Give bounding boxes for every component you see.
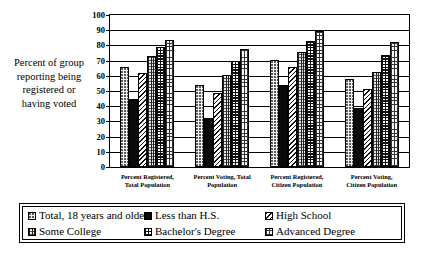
legend-swatch-icon xyxy=(144,228,152,236)
y-tick-label: 30 xyxy=(81,117,105,125)
y-tick-mark xyxy=(106,121,109,122)
y-tick-mark xyxy=(106,30,109,31)
bar-group xyxy=(110,15,185,167)
bar xyxy=(138,73,147,167)
bar xyxy=(345,79,354,167)
y-tick-label: 20 xyxy=(81,133,105,141)
legend-label: Bachelor's Degree xyxy=(155,226,235,237)
x-axis-category-line: Total Population xyxy=(110,181,185,189)
bar xyxy=(354,108,363,167)
legend-item[interactable]: Some College xyxy=(28,226,101,237)
y-tick-label: 60 xyxy=(81,72,105,80)
y-tick-mark xyxy=(106,76,109,77)
y-tick-mark xyxy=(106,45,109,46)
bar xyxy=(222,75,231,167)
chart-figure: Percent of group reporting being registe… xyxy=(0,0,424,256)
bar xyxy=(363,89,372,167)
x-axis-category-line: Citizen Population xyxy=(260,181,335,189)
y-tick-label: 70 xyxy=(81,57,105,65)
y-tick-mark xyxy=(106,106,109,107)
x-axis-category-label: Percent Voting,Citizen Population xyxy=(334,173,409,188)
y-tick-mark xyxy=(106,152,109,153)
bar xyxy=(297,52,306,167)
y-tick-label: 40 xyxy=(81,102,105,110)
bar xyxy=(129,99,138,167)
bar xyxy=(270,60,279,167)
bar-group xyxy=(260,15,335,167)
bar xyxy=(120,67,129,167)
x-axis-category-line: Citizen Population xyxy=(334,181,409,189)
legend-swatch-icon xyxy=(144,212,152,220)
y-tick-label: 10 xyxy=(81,148,105,156)
bar-group xyxy=(185,15,260,167)
legend-swatch-icon xyxy=(265,228,273,236)
bar xyxy=(372,72,381,167)
bar xyxy=(306,41,315,167)
y-tick-label: 0 xyxy=(81,163,105,171)
bar xyxy=(156,47,165,167)
x-axis-category-label: Percent Registered,Total Population xyxy=(110,173,185,188)
x-axis-category-line: Percent Voting, Total xyxy=(185,173,260,181)
x-axis-category-label: Percent Voting, TotalPopulation xyxy=(185,173,260,188)
legend-label: High School xyxy=(276,210,331,221)
bar-series-container xyxy=(110,15,409,167)
legend-swatch-icon xyxy=(28,228,36,236)
legend-item[interactable]: High School xyxy=(265,210,331,221)
legend-item[interactable]: Less than H.S. xyxy=(144,210,219,221)
x-axis-category-line: Percent Registered, xyxy=(260,173,335,181)
bar xyxy=(315,31,324,167)
bar xyxy=(147,56,156,167)
y-tick-label: 90 xyxy=(81,26,105,34)
legend-label: Total, 18 years and older xyxy=(39,210,148,221)
x-axis-category-label: Percent Registered,Citizen Population xyxy=(260,173,335,188)
bar-group xyxy=(334,15,409,167)
bar xyxy=(390,42,399,167)
y-tick-mark xyxy=(106,91,109,92)
y-tick-mark xyxy=(106,15,109,16)
legend-item[interactable]: Advanced Degree xyxy=(265,226,355,237)
legend-label: Advanced Degree xyxy=(276,226,355,237)
legend-label: Less than H.S. xyxy=(155,210,219,221)
bar xyxy=(240,49,249,167)
legend-swatch-icon xyxy=(28,212,36,220)
y-tick-label: 100 xyxy=(81,11,105,19)
bar xyxy=(279,85,288,167)
y-tick-mark xyxy=(106,137,109,138)
legend-item[interactable]: Total, 18 years and older xyxy=(28,210,148,221)
bar xyxy=(204,118,213,167)
bar xyxy=(165,40,174,167)
y-tick-mark xyxy=(106,167,109,168)
legend-label: Some College xyxy=(39,226,101,237)
x-axis-category-line: Population xyxy=(185,181,260,189)
y-tick-label: 50 xyxy=(81,87,105,95)
x-axis-category-line: Percent Registered, xyxy=(110,173,185,181)
legend-swatch-icon xyxy=(265,212,273,220)
bar xyxy=(288,67,297,167)
y-tick-label: 80 xyxy=(81,41,105,49)
legend-item[interactable]: Bachelor's Degree xyxy=(144,226,235,237)
bar xyxy=(195,85,204,167)
bar xyxy=(213,93,222,167)
y-tick-mark xyxy=(106,61,109,62)
x-axis-category-line: Percent Voting, xyxy=(334,173,409,181)
bar xyxy=(231,61,240,167)
legend: Total, 18 years and olderLess than H.S.H… xyxy=(19,203,405,243)
bar xyxy=(381,55,390,167)
